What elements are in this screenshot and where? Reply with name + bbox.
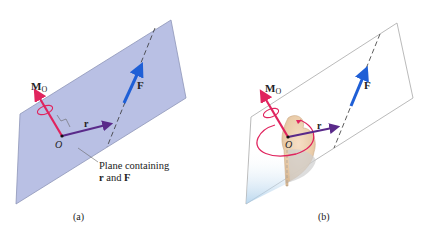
origin-label-a: O — [55, 139, 62, 150]
figure-b: MO r F O (b) — [246, 23, 413, 223]
moment-label-a: MO — [31, 80, 47, 94]
origin-point-a — [60, 134, 63, 137]
caption-b: (b) — [318, 211, 330, 223]
origin-label-b: O — [285, 139, 292, 150]
diagram-canvas: MO r F O Plane containing r and F (a) — [0, 0, 437, 242]
plane-label-line1-a: Plane containing — [99, 160, 170, 171]
force-label-a: F — [137, 79, 144, 91]
figure-a: MO r F O Plane containing r and F (a) — [16, 20, 186, 223]
position-label-a: r — [84, 118, 89, 129]
position-label-b: r — [317, 120, 322, 131]
force-label-b: F — [364, 79, 371, 91]
moment-label-b: MO — [265, 82, 281, 96]
caption-a: (a) — [73, 211, 84, 223]
plane-label-line2-a: r and F — [99, 172, 131, 183]
